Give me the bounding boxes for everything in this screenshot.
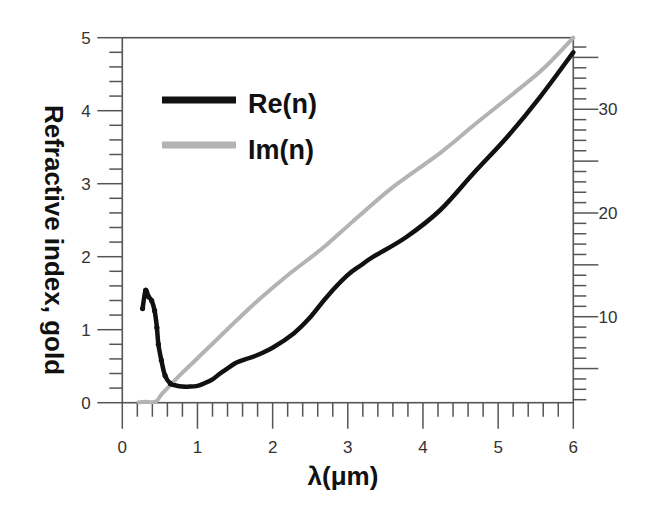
y2-tick-label: 20 bbox=[599, 204, 618, 223]
x-tick-label: 6 bbox=[569, 438, 578, 457]
series-im-n-line bbox=[139, 38, 574, 403]
y-tick-label: 1 bbox=[81, 321, 90, 340]
series-re-n-marker bbox=[156, 342, 161, 347]
x-axis-title: λ(μm) bbox=[308, 461, 379, 491]
y-tick-label: 4 bbox=[81, 102, 90, 121]
series-re-n-marker bbox=[149, 298, 154, 303]
x-tick-label: 3 bbox=[343, 438, 352, 457]
y-tick-label: 3 bbox=[81, 175, 90, 194]
x-tick-label: 0 bbox=[118, 438, 127, 457]
y2-tick-label: 30 bbox=[599, 100, 618, 119]
series-re-n-marker bbox=[159, 358, 164, 363]
y-axis-title: Refractive index, gold bbox=[39, 105, 69, 375]
x-tick-label: 5 bbox=[493, 438, 502, 457]
y2-tick-label: 10 bbox=[599, 308, 618, 327]
x-tick-label: 2 bbox=[268, 438, 277, 457]
x-tick-label: 1 bbox=[193, 438, 202, 457]
y-tick-label: 5 bbox=[81, 29, 90, 48]
series-re-n-marker bbox=[163, 373, 168, 378]
series-re-n-marker bbox=[143, 288, 148, 293]
series-re-n-marker bbox=[154, 325, 159, 330]
x-tick-label: 4 bbox=[418, 438, 427, 457]
y-tick-label: 0 bbox=[81, 394, 90, 413]
series-re-n-marker bbox=[140, 306, 145, 311]
y-tick-label: 2 bbox=[81, 248, 90, 267]
refractive-index-chart: 0123456012345102030 Re(n) Im(n) λ(μm) Re… bbox=[0, 0, 664, 510]
legend-label-re: Re(n) bbox=[248, 89, 317, 119]
legend-label-im: Im(n) bbox=[248, 135, 314, 165]
legend: Re(n) Im(n) bbox=[162, 89, 317, 165]
plot-series bbox=[139, 38, 574, 403]
plot-frame bbox=[122, 38, 573, 403]
axis-ticks bbox=[97, 38, 598, 429]
series-re-n-marker bbox=[168, 381, 173, 386]
series-re-n-marker bbox=[152, 308, 157, 313]
